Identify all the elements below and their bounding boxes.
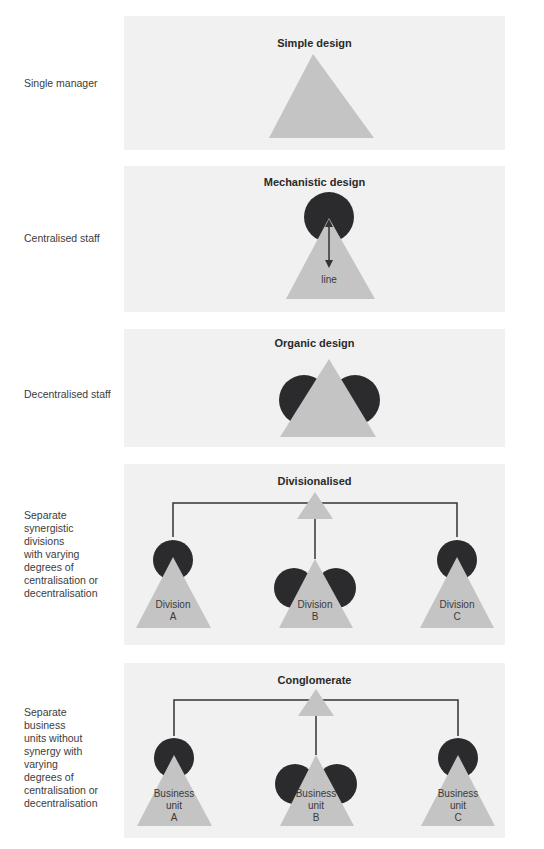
- triangle-icon: [124, 16, 505, 150]
- panel-divisionalised: Divisionalised Division A Division B Div…: [124, 464, 505, 645]
- mechanistic-diagram: [124, 166, 505, 312]
- row-label-conglomerate: Separate business units without synergy …: [24, 706, 98, 810]
- row-label-simple: Single manager: [24, 77, 98, 90]
- panel-mechanistic-design: Mechanistic design line: [124, 166, 505, 312]
- panel-organic-design: Organic design: [124, 329, 505, 447]
- line-annotation: line: [294, 274, 364, 286]
- division-c-label: Division C: [422, 599, 492, 623]
- panel-simple-design: Simple design: [124, 16, 505, 150]
- business-unit-b-label: Business unit B: [281, 788, 351, 824]
- row-label-organic: Decentralised staff: [24, 388, 111, 401]
- row-label-divisionalised: Separate synergistic divisions with vary…: [24, 509, 98, 600]
- row-label-mechanistic: Centralised staff: [24, 232, 100, 245]
- business-unit-a-label: Business unit A: [139, 788, 209, 824]
- business-unit-c-label: Business unit C: [423, 788, 493, 824]
- division-b-label: Division B: [280, 599, 350, 623]
- organic-diagram: [124, 329, 505, 447]
- hq-triangle-icon: [298, 689, 334, 716]
- panel-conglomerate: Conglomerate Business unit A Business un…: [124, 663, 505, 838]
- hq-triangle-icon: [297, 492, 333, 519]
- division-a-label: Division A: [138, 599, 208, 623]
